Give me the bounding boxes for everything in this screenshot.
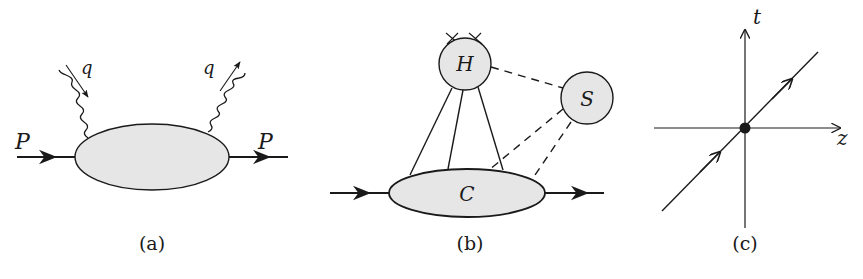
- hadronic-blob: [75, 124, 229, 190]
- panel-c: t z (c): [654, 5, 848, 254]
- panel-b: H S C (b): [330, 33, 613, 254]
- label-q-out: q: [203, 57, 215, 78]
- label-z: z: [836, 126, 848, 150]
- photon-line-in: [59, 70, 88, 138]
- label-h: H: [455, 52, 474, 76]
- hc-line-3: [478, 87, 503, 170]
- sc-dashed-line-2: [533, 122, 571, 178]
- lightcone-trajectory: [662, 52, 818, 211]
- hc-line-1: [410, 88, 452, 175]
- label-s: S: [580, 87, 594, 111]
- origin-vertex: [740, 123, 751, 134]
- panel-a: P P q q (a): [14, 57, 288, 254]
- arrow-icon: [700, 152, 720, 172]
- label-t: t: [753, 5, 762, 29]
- label-q-in: q: [81, 57, 93, 78]
- figure-canvas: P P q q (a) H S C (b): [0, 0, 863, 279]
- caption-a: (a): [139, 232, 165, 254]
- label-c: C: [459, 182, 474, 206]
- hc-line-2: [448, 90, 463, 169]
- arrow-icon: [772, 79, 792, 99]
- label-p-out: P: [257, 129, 274, 154]
- caption-c: (c): [732, 232, 757, 254]
- hs-dashed-line: [491, 67, 563, 88]
- caption-b: (b): [457, 232, 484, 254]
- label-p-in: P: [14, 129, 31, 154]
- momentum-arrow-out: [220, 62, 240, 91]
